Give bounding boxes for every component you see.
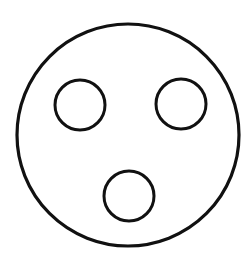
inner-circle-upper-right xyxy=(156,79,206,129)
outer-circle xyxy=(17,24,239,246)
inner-circle-bottom-center xyxy=(104,171,154,221)
diagram-canvas xyxy=(0,0,251,274)
inner-circle-upper-left xyxy=(55,80,105,130)
